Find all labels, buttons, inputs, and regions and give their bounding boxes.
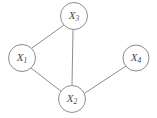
edge-group [31,25,126,93]
edge-x3-x2 [72,30,73,85]
node-x3[interactable]: X3 [61,3,88,30]
edge-x1-x2 [31,68,62,92]
node-x1[interactable]: X1 [9,45,36,72]
edge-x2-x4 [85,66,126,93]
node-group: X1 X2 X3 X4 [9,3,150,113]
node-x2[interactable]: X2 [59,86,86,113]
node-x4[interactable]: X4 [123,45,149,71]
graph-figure: X1 X2 X3 X4 [0,0,157,118]
graph-canvas: X1 X2 X3 X4 [0,0,157,118]
edge-x1-x3 [32,25,64,48]
